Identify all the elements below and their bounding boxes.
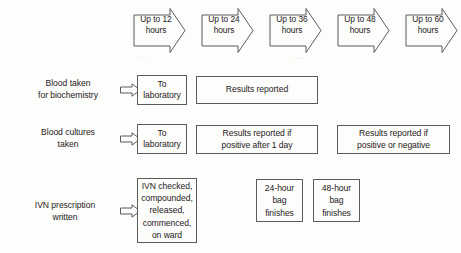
scan-artifact: ... [295,53,304,60]
timeline-arrow-label: Up to 12 hours [136,14,176,36]
timeline-arrow-label: Up to 24 hours [204,14,244,36]
timeline-arrow-0: Up to 12 hours [133,7,186,54]
box-results-reported-biochemistry: Results reported [196,76,318,104]
scan-artifact: ... [138,52,147,59]
timeline-arrow-2: Up to 36 hours [269,7,322,54]
box-24-hour-bag-finishes: 24-hour bag finishes [256,179,303,222]
box-results-positive-after-1-day: Results reported if positive after 1 day [196,125,318,154]
timeline-arrow-label: Up to 36 hours [272,14,312,36]
box-to-laboratory-blood-cultures: To laboratory [137,124,187,154]
box-48-hour-bag-finishes: 48-hour bag finishes [313,179,360,222]
box-to-laboratory-biochemistry: To laboratory [137,75,187,105]
box-results-positive-or-negative: Results reported if positive or negative [337,125,450,154]
row-label-blood-cultures: Blood cultures taken [16,127,120,150]
row-label-ivn-prescription: IVN prescription written [10,200,120,223]
flowchart-figure: Up to 12 hours Up to 24 hours Up to 36 h… [0,0,461,253]
timeline-arrow-label: Up to 60 hours [408,14,448,36]
timeline-arrow-1: Up to 24 hours [201,7,254,54]
box-ivn-checked: IVN checked, compounded, released, comme… [137,178,197,243]
row-label-biochemistry: Blood taken for biochemistry [16,78,120,101]
timeline-arrow-4: Up to 60 hours [405,7,458,54]
timeline-arrow-3: Up to 48 hours [337,7,390,54]
timeline-arrow-label: Up to 48 hours [340,14,380,36]
